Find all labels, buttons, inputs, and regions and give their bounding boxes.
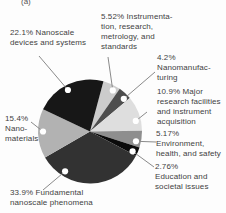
slice-label-nanomanufacturing: 4.2% Nanomanufac- turing bbox=[157, 53, 211, 83]
leader-line-nanomanufacturing bbox=[124, 72, 155, 99]
slice-label-nanomaterials: 15.4% Nano- materials bbox=[5, 114, 38, 144]
slice-label-education-societal-issues: 2.76% Education and societal issues bbox=[155, 162, 209, 192]
leader-line-education-societal-issues bbox=[133, 151, 154, 167]
callout-dot-education-societal-issues bbox=[130, 148, 136, 154]
slice-label-major-research-facilities-instrument-acquisition: 10.9% Major research facilities and inst… bbox=[157, 87, 221, 127]
slice-label-nanoscale-devices-systems: 22.1% Nanoscale devices and systems bbox=[10, 28, 86, 48]
callout-dot-nanomanufacturing bbox=[121, 96, 127, 102]
slice-label-environment-health-safety: 5.17% Environment, health, and safety bbox=[156, 129, 221, 159]
callout-dot-major-research-facilities-instrument-acquisition bbox=[133, 118, 139, 124]
callout-dot-environment-health-safety bbox=[133, 138, 139, 144]
leader-line-nanoscale-devices-systems bbox=[39, 56, 68, 90]
callout-dot-nanomaterials bbox=[40, 128, 46, 134]
callout-dot-instrumentation-research-metrology-standards bbox=[110, 87, 116, 93]
slice-label-fundamental-nanoscale-phenomena: 33.9% Fundamental nanoscale phenomena bbox=[10, 188, 93, 208]
callout-dot-nanoscale-devices-systems bbox=[65, 87, 71, 93]
pie-chart-figure: (a) 5.52% Instrumenta- tion, research, m… bbox=[0, 0, 226, 213]
callout-dot-fundamental-nanoscale-phenomena bbox=[62, 168, 68, 174]
slice-label-instrumentation-research-metrology-standards: 5.52% Instrumenta- tion, research, metro… bbox=[101, 12, 173, 52]
